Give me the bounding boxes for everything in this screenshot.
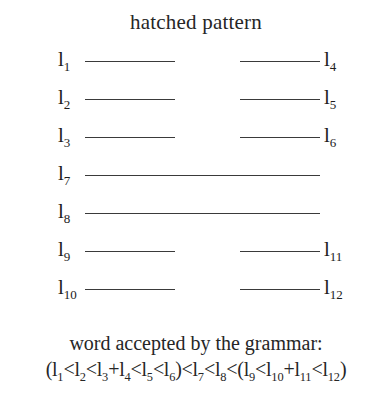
hatch-line-right — [240, 137, 320, 138]
formula-token: +l11 — [283, 358, 311, 380]
hatch-line-right — [240, 99, 320, 100]
formula-token: <l5 — [131, 358, 153, 380]
formula-subscript: 10 — [271, 370, 283, 384]
formula-token: (l1 — [46, 358, 64, 380]
formula-token: <l6 — [153, 358, 175, 380]
formula-subscript: 12 — [328, 370, 340, 384]
caption-formula: (l1<l2<l3+l4<l5<l6)<l7<l8<(l9<l10+l11<l1… — [0, 356, 392, 382]
row-label-right: l12 — [324, 277, 343, 298]
row-label-left: l9 — [58, 239, 70, 260]
hatch-rows: l1l4l2l5l3l6l7l8l9l11l10l12 — [0, 47, 392, 313]
formula-token: +l4 — [108, 358, 130, 380]
row-label-left: l8 — [58, 201, 70, 222]
hatch-line-left — [85, 61, 175, 62]
formula-subscript: 2 — [80, 370, 86, 384]
hatch-row: l9l11 — [0, 237, 392, 275]
hatch-row: l1l4 — [0, 47, 392, 85]
figure-title: hatched pattern — [0, 9, 392, 35]
hatch-row: l7 — [0, 161, 392, 199]
hatch-line-right — [240, 251, 320, 252]
formula-token: <l3 — [86, 358, 108, 380]
row-label-right-subscript: 4 — [330, 59, 336, 74]
row-label-right-subscript: 6 — [330, 135, 336, 150]
hatch-line-full — [85, 213, 320, 214]
hatch-line-full — [85, 175, 320, 176]
formula-subscript: 5 — [147, 370, 153, 384]
formula-token: )<l7 — [175, 358, 204, 380]
row-label-left: l7 — [58, 163, 70, 184]
hatch-line-right — [240, 289, 320, 290]
row-label-right: l11 — [324, 239, 342, 260]
formula-token: <l10 — [255, 358, 283, 380]
row-label-left: l2 — [58, 87, 70, 108]
hatch-row: l3l6 — [0, 123, 392, 161]
row-label-left-subscript: 10 — [64, 287, 77, 302]
hatch-row: l8 — [0, 199, 392, 237]
hatch-line-left — [85, 251, 175, 252]
formula-token: <(l9 — [226, 358, 255, 380]
row-label-left: l10 — [58, 277, 77, 298]
row-label-left-subscript: 9 — [64, 249, 70, 264]
hatch-line-left — [85, 289, 175, 290]
hatched-pattern-figure: hatched pattern l1l4l2l5l3l6l7l8l9l11l10… — [0, 0, 392, 408]
hatch-line-right — [240, 61, 320, 62]
hatch-line-left — [85, 99, 175, 100]
row-label-left: l1 — [58, 49, 70, 70]
caption-line-1: word accepted by the grammar: — [0, 331, 392, 356]
row-label-left-subscript: 1 — [64, 59, 70, 74]
row-label-right-subscript: 11 — [330, 249, 342, 264]
row-label-left-subscript: 2 — [64, 97, 70, 112]
hatch-row: l10l12 — [0, 275, 392, 313]
row-label-right: l4 — [324, 49, 336, 70]
row-label-right: l5 — [324, 87, 336, 108]
row-label-right: l6 — [324, 125, 336, 146]
row-label-right-subscript: 12 — [330, 287, 343, 302]
row-label-left-subscript: 3 — [64, 135, 70, 150]
hatch-row: l2l5 — [0, 85, 392, 123]
formula-token: <l12 — [311, 358, 339, 380]
hatch-line-left — [85, 137, 175, 138]
row-label-left-subscript: 8 — [64, 211, 70, 226]
row-label-left-subscript: 7 — [64, 173, 70, 188]
formula-token: <l8 — [204, 358, 226, 380]
row-label-left: l3 — [58, 125, 70, 146]
formula-token: <l2 — [63, 358, 85, 380]
row-label-right-subscript: 5 — [330, 97, 336, 112]
figure-caption: word accepted by the grammar: (l1<l2<l3+… — [0, 331, 392, 382]
formula-subscript: 4 — [124, 370, 130, 384]
formula-subscript: 11 — [300, 370, 312, 384]
formula-token: ) — [340, 358, 346, 380]
